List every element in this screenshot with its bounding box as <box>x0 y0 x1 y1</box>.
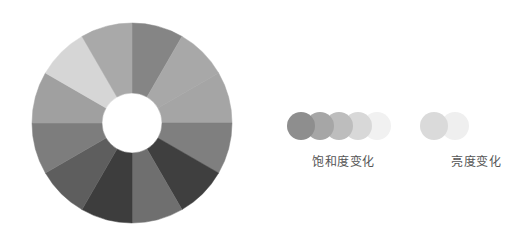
brightness-label: 亮度变化 <box>451 152 501 169</box>
brightness-circle <box>420 112 448 140</box>
saturation-label: 饱和度变化 <box>312 152 375 169</box>
color-wheel <box>0 0 265 235</box>
saturation-circle <box>287 112 315 140</box>
